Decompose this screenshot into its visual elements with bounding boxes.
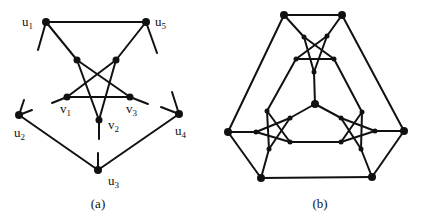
graph-node-tp4 [332, 57, 337, 62]
graph-node-lp1 [265, 109, 270, 114]
panel-b: (b) [224, 11, 408, 211]
graph-edge [19, 115, 98, 170]
graph-edge [342, 15, 404, 131]
graph-edge [77, 60, 99, 120]
graph-figure: u1u5v1v3v2u2u4u3(a) (b) [0, 0, 427, 222]
graph-node-u5 [142, 18, 150, 26]
node-label-u4: u4 [175, 123, 187, 140]
graph-node-u3 [94, 166, 102, 174]
graph-node-tp1 [302, 35, 307, 40]
graph-edge [361, 112, 362, 149]
graph-node-rp4 [359, 147, 364, 152]
graph-node-tp2 [325, 34, 330, 39]
graph-edge [315, 104, 341, 118]
graph-node-u4 [175, 110, 183, 118]
graph-node-rp1 [360, 110, 365, 115]
graph-node-or [400, 127, 408, 135]
graph-edge [334, 59, 362, 112]
graph-node-lp2 [288, 116, 293, 121]
graph-node-p1 [74, 57, 81, 64]
graph-edge [116, 22, 146, 60]
graph-edge [341, 131, 375, 142]
node-label-u1: u1 [22, 14, 33, 31]
graph-edge [46, 22, 77, 60]
graph-edge [261, 149, 269, 178]
graph-node-lp3 [288, 140, 293, 145]
panel-a: u1u5v1v3v2u2u4u3(a) [14, 14, 187, 211]
node-label-v2: v2 [108, 117, 119, 134]
graph-edge [228, 15, 284, 132]
graph-node-u2 [15, 111, 23, 119]
graph-node-c [311, 100, 319, 108]
graph-edge [290, 104, 315, 118]
graph-edge [314, 72, 315, 104]
graph-node-br [368, 173, 376, 181]
graph-edge [361, 149, 372, 177]
panel-caption-a: (a) [91, 196, 105, 211]
node-label-u3: u3 [108, 173, 120, 190]
graph-edge [67, 60, 116, 97]
graph-node-tp5 [312, 70, 317, 75]
graph-node-t2 [338, 11, 346, 19]
graph-node-bl [257, 174, 265, 182]
graph-node-v3 [127, 94, 134, 101]
graph-edge [372, 131, 404, 177]
graph-edge [77, 60, 130, 97]
node-label-v3: v3 [126, 101, 138, 118]
graph-node-v1 [64, 94, 71, 101]
graph-node-rp3 [339, 140, 344, 145]
graph-edge [38, 22, 46, 50]
graph-node-tp3 [294, 57, 299, 62]
panel-caption-b: (b) [312, 196, 327, 211]
graph-node-u1 [42, 18, 50, 26]
graph-edge [341, 112, 362, 142]
graph-edge [261, 177, 372, 178]
node-label-u2: u2 [14, 125, 25, 142]
graph-node-p2 [113, 57, 120, 64]
graph-node-ol [224, 128, 232, 136]
graph-node-v2 [96, 117, 103, 124]
graph-edge [267, 59, 296, 111]
node-label-u5: u5 [155, 14, 167, 31]
graph-edge [267, 111, 269, 149]
graph-node-lp5 [254, 130, 259, 135]
node-label-v1: v1 [60, 101, 71, 118]
graph-node-rp2 [339, 116, 344, 121]
graph-edge [99, 60, 116, 120]
graph-node-rp5 [373, 129, 378, 134]
graph-edge [284, 15, 304, 37]
graph-edge [228, 132, 261, 178]
graph-node-lp4 [267, 147, 272, 152]
graph-node-t1 [280, 11, 288, 19]
